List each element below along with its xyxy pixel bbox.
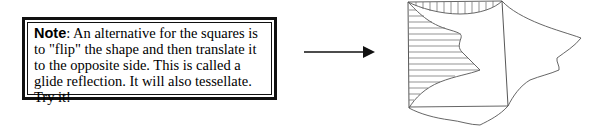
right-arrow-icon xyxy=(300,40,380,64)
note-content: Note: An alternative for the squares is … xyxy=(27,22,272,95)
glide-reflection-shape xyxy=(400,0,606,127)
note-box: Note: An alternative for the squares is … xyxy=(22,17,277,100)
note-label: Note xyxy=(34,25,66,41)
